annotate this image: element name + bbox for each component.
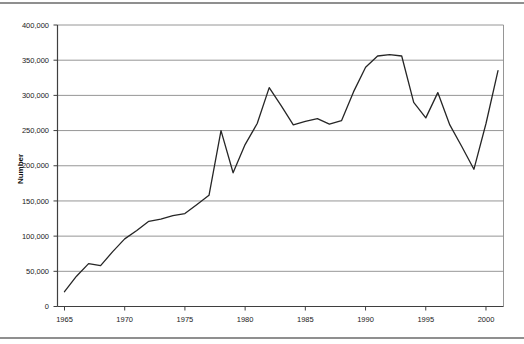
page-rule-bottom [0, 337, 524, 339]
x-tick-label: 1965 [56, 315, 73, 324]
y-tick-label: 300,000 [22, 91, 49, 100]
y-tick-label: 150,000 [22, 197, 49, 206]
y-tick-label: 0 [45, 302, 49, 311]
data-line [65, 55, 499, 292]
y-tick-label: 400,000 [22, 21, 49, 30]
x-tick-label: 1980 [237, 315, 254, 324]
chart-canvas: 050,000100,000150,000200,000250,000300,0… [0, 0, 524, 344]
x-tick-label: 1990 [357, 315, 374, 324]
x-tick-label: 2000 [478, 315, 495, 324]
line-chart-figure: 050,000100,000150,000200,000250,000300,0… [0, 0, 524, 344]
x-tick-label: 1985 [297, 315, 314, 324]
x-tick-label: 1975 [177, 315, 194, 324]
x-tick-label: 1970 [116, 315, 133, 324]
y-tick-label: 200,000 [22, 161, 49, 170]
y-axis-title: Number [16, 154, 25, 184]
y-tick-label: 250,000 [22, 126, 49, 135]
y-tick-label: 50,000 [26, 267, 49, 276]
y-tick-label: 350,000 [22, 56, 49, 65]
x-tick-label: 1995 [417, 315, 434, 324]
page: { "chart_data": { "type": "line", "title… [0, 0, 524, 344]
y-tick-label: 100,000 [22, 232, 49, 241]
